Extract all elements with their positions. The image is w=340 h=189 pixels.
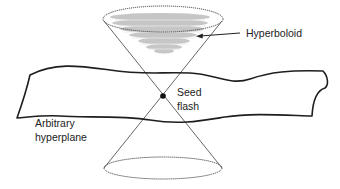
light-cone-diagram: Hyperboloid Seed flash Arbitrary hyperpl… xyxy=(0,0,340,189)
seed-flash-label-line2: flash xyxy=(177,100,199,112)
past-cone-rim xyxy=(104,157,222,179)
hyperboloid-label: Hyperboloid xyxy=(246,27,302,39)
hyperplane-label-line1: Arbitrary xyxy=(35,117,75,129)
seed-flash-label-line1: Seed xyxy=(177,86,202,98)
arbitrary-hyperplane xyxy=(17,66,327,122)
hyperboloid-arrow xyxy=(196,33,240,39)
hyperplane-label-line2: hyperplane xyxy=(35,131,87,143)
seed-flash-dot xyxy=(160,93,166,99)
